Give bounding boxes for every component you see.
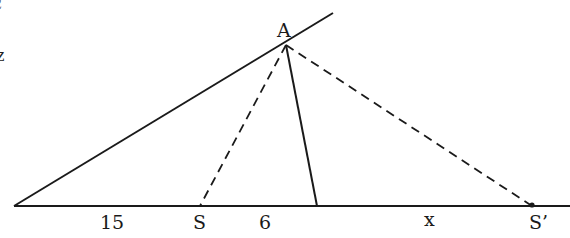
edge-mark-top: ℓ xyxy=(0,0,2,12)
point-s-prime-dot xyxy=(529,202,534,207)
segment-label-15: 15 xyxy=(100,213,124,232)
dashed-line-a-s xyxy=(200,45,286,206)
segment-label-x: x xyxy=(424,210,435,229)
segment-label-6: 6 xyxy=(259,213,271,232)
dashed-line-a-s-prime xyxy=(286,45,532,206)
solid-line-a-foot xyxy=(286,45,317,206)
point-label-s-prime: S’ xyxy=(529,213,548,232)
edge-mark-middle: z xyxy=(0,48,4,64)
point-label-a: A xyxy=(277,21,291,40)
upper-slanted-line xyxy=(14,13,333,206)
point-label-s: S xyxy=(193,213,206,232)
